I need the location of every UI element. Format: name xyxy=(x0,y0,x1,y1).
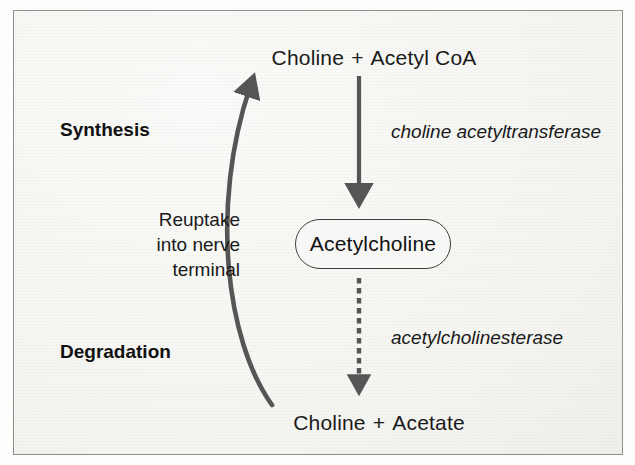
section-label-degradation: Degradation xyxy=(60,341,171,363)
acetylcholine-node: Acetylcholine xyxy=(295,219,451,269)
bottom-product-choline: Choline xyxy=(293,411,366,434)
acetylcholine-label: Acetylcholine xyxy=(310,232,436,256)
top-reactant-choline: Choline xyxy=(272,46,345,69)
top-plus-operator: + xyxy=(344,46,370,69)
reuptake-annotation: Reuptake into nerve terminal xyxy=(118,207,240,282)
top-reactants-row: Choline+Acetyl CoA xyxy=(272,46,477,70)
bottom-plus-operator: + xyxy=(366,411,392,434)
reuptake-line-3: terminal xyxy=(118,257,240,282)
top-reactant-acetyl-coa: Acetyl CoA xyxy=(371,46,477,69)
enzyme-label-choline-acetyltransferase: choline acetyltransferase xyxy=(391,121,601,143)
bottom-products-row: Choline+Acetate xyxy=(293,411,465,435)
reuptake-line-2: into nerve xyxy=(118,232,240,257)
reuptake-line-1: Reuptake xyxy=(118,207,240,232)
diagram-root: Choline+Acetyl CoA Synthesis Degradation… xyxy=(0,0,635,465)
bottom-product-acetate: Acetate xyxy=(392,411,465,434)
enzyme-label-acetylcholinesterase: acetylcholinesterase xyxy=(391,327,563,349)
figure-panel: Choline+Acetyl CoA Synthesis Degradation… xyxy=(13,10,623,455)
section-label-synthesis: Synthesis xyxy=(60,119,150,141)
